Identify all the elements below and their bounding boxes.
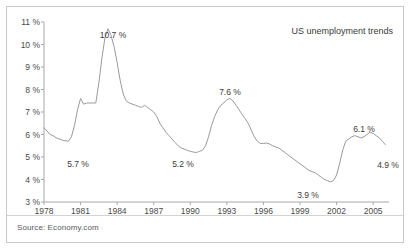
unemployment-line-series	[44, 29, 385, 182]
y-axis-tick-label: 9 %	[25, 62, 40, 72]
y-axis-tick-label: 10 %	[21, 40, 40, 50]
y-axis-tick-label: 6 %	[25, 130, 40, 140]
source-caption: Source: Economy.com	[17, 223, 99, 232]
x-axis-tick-labels: 1978198119841987199019931996199920022005	[44, 206, 389, 220]
plot-svg	[44, 22, 389, 202]
y-axis-tick-label: 11 %	[21, 17, 40, 27]
plot-area	[44, 22, 389, 202]
chart-figure: US unemployment trends 3 %4 %5 %6 %7 %8 …	[0, 0, 411, 250]
footer-divider	[7, 215, 403, 216]
y-axis-tick-label: 4 %	[25, 175, 40, 185]
y-axis-tick-label: 7 %	[25, 107, 40, 117]
y-axis-tick-label: 8 %	[25, 85, 40, 95]
y-axis-tick-labels: 3 %4 %5 %6 %7 %8 %9 %10 %11 %	[8, 22, 40, 202]
y-axis-tick-label: 5 %	[25, 152, 40, 162]
